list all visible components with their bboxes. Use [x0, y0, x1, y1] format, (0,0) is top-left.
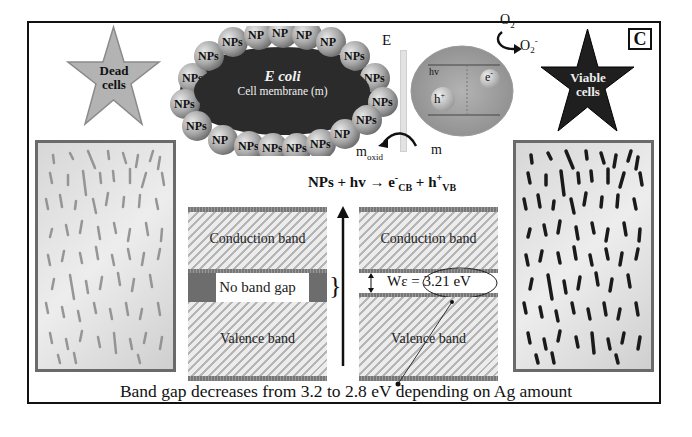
conduction-band-label: Conduction band	[188, 231, 327, 247]
double-arrow-icon	[367, 273, 375, 293]
energy-up-arrow	[337, 206, 349, 368]
ecoli-label: E coli Cell membrane (m)	[220, 68, 345, 97]
svg-text:NPs: NPs	[356, 113, 377, 127]
hv-label: hv	[429, 66, 439, 77]
conduction-band-label: Conduction band	[359, 231, 498, 247]
electron-label: e-	[485, 69, 493, 85]
ecoli-with-nanoparticles: NPs NPs NPs NP NP NP NP NPs NPs NPs NPs …	[165, 26, 400, 156]
svg-text:NP: NP	[296, 28, 312, 42]
svg-text:NPs: NPs	[372, 95, 393, 109]
photocatalyst-particle: hv h+ e-	[410, 44, 515, 139]
svg-text:NPs: NPs	[186, 119, 207, 133]
hole-label: h+	[434, 91, 445, 107]
svg-text:NP: NP	[212, 133, 228, 147]
no-band-gap-label: No band gap	[188, 279, 327, 296]
svg-text:NPs: NPs	[238, 139, 259, 153]
svg-text:NPs: NPs	[310, 137, 331, 151]
svg-text:NP: NP	[272, 26, 288, 40]
bacteria-scatter-icon	[38, 143, 173, 369]
figure-caption: Band gap decreases from 3.2 to 2.8 eV de…	[32, 381, 660, 402]
valence-band-label: Valence band	[188, 331, 327, 347]
highlight-ellipse-icon	[421, 265, 499, 301]
photoexcitation-equation: NPs + hv → e-CB + h+VB	[247, 172, 517, 193]
dead-cells-micrograph	[35, 140, 176, 372]
photocatalyst-icon	[410, 44, 515, 139]
viable-cells-star: Viable cells	[540, 27, 635, 135]
viable-cells-label: Viable cells	[561, 71, 615, 99]
svg-text:NP: NP	[334, 127, 350, 141]
svg-text:NPs: NPs	[262, 141, 283, 155]
svg-text:NPs: NPs	[222, 35, 243, 49]
energy-axis-label: E	[382, 32, 391, 49]
svg-text:NPs: NPs	[344, 49, 365, 63]
bacteria-scatter-icon	[516, 143, 651, 369]
svg-text:NP: NP	[320, 35, 336, 49]
m-oxid-label: moxid	[356, 144, 383, 162]
arrow-up-icon	[337, 206, 349, 368]
m-label: m	[431, 142, 442, 158]
o2-label: O2	[500, 12, 515, 30]
svg-text:NPs: NPs	[198, 49, 219, 63]
superoxide-label: O2-	[520, 36, 538, 55]
viable-cells-micrograph	[513, 140, 654, 372]
dead-cells-label: Dead cells	[90, 64, 138, 92]
svg-text:NP: NP	[248, 28, 264, 42]
band-diagram-no-gap: Conduction band No band gap Valence band…	[188, 207, 327, 382]
svg-text:NPs: NPs	[174, 97, 195, 111]
dead-cells-star: Dead cells	[66, 24, 161, 129]
svg-text:NPs: NPs	[286, 141, 307, 155]
pointer-line-icon	[390, 300, 460, 390]
